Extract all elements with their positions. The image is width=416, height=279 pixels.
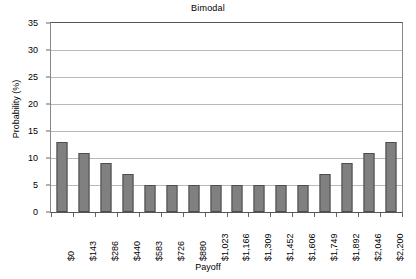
x-tick-mark [51,213,52,217]
y-tick-label: 5 [33,180,38,190]
x-tick-label: $1,166 [241,233,251,261]
bar-slot [161,23,183,212]
bar[interactable] [188,185,199,212]
x-tick-mark [139,213,140,217]
bar-slot [380,23,402,212]
x-tick-mark [358,213,359,217]
x-tick-label: $880 [198,241,208,261]
x-tick-mark [183,213,184,217]
bar[interactable] [122,174,133,212]
x-tick-mark [380,213,381,217]
x-tick-mark [314,213,315,217]
bar[interactable] [78,153,89,212]
y-tick-label: 15 [28,126,38,136]
bar-slot [51,23,73,212]
x-tick-label: $286 [110,241,120,261]
x-tick-mark [227,213,228,217]
x-tick-label: $2,200 [395,233,405,261]
y-axis: Probability (%) 05101520253035 [0,0,46,279]
x-tick-mark [292,213,293,217]
x-tick-mark [161,213,162,217]
y-tick-label: 0 [33,207,38,217]
bar[interactable] [254,185,265,212]
bar-slot [314,23,336,212]
chart-title: Bimodal [0,3,416,13]
bar-slot [292,23,314,212]
x-tick-label: $440 [132,241,142,261]
bar[interactable] [298,185,309,212]
x-tick-mark [270,213,271,217]
x-tick-label: $1,749 [329,233,339,261]
x-tick-label: $1,892 [351,233,361,261]
bar-chart: Bimodal Probability (%) 05101520253035 $… [0,0,416,279]
x-tick-mark [73,213,74,217]
bar-slot [95,23,117,212]
bar[interactable] [144,185,155,212]
x-tick-mark [248,213,249,217]
bar-slot [205,23,227,212]
y-tick-label: 35 [28,18,38,28]
x-tick-label: $1,023 [220,233,230,261]
y-tick-label: 30 [28,45,38,55]
x-tick-label: $1,309 [263,233,273,261]
bar-slot [183,23,205,212]
bars-layer [51,23,402,212]
x-tick-mark [117,213,118,217]
x-tick-label: $583 [154,241,164,261]
bar[interactable] [364,153,375,212]
bar-slot [336,23,358,212]
bar-slot [270,23,292,212]
bar-slot [73,23,95,212]
bar[interactable] [276,185,287,212]
bar[interactable] [100,163,111,212]
x-tick-label: $726 [176,241,186,261]
bar[interactable] [342,163,353,212]
y-axis-title: Probability (%) [11,49,21,169]
bar-slot [248,23,270,212]
x-tick-label: $143 [88,241,98,261]
x-axis-labels: $0$143$286$440$583$726$880$1,023$1,166$1… [51,219,402,263]
bar-slot [139,23,161,212]
x-tick-mark [95,213,96,217]
x-tick-mark [402,213,403,217]
bar[interactable] [320,174,331,212]
bar[interactable] [56,142,67,212]
bar-slot [227,23,249,212]
bar-slot [117,23,139,212]
x-tick-label: $1,606 [307,233,317,261]
x-tick-mark [205,213,206,217]
y-tick-label: 20 [28,99,38,109]
bar-slot [358,23,380,212]
x-tick-mark [336,213,337,217]
x-axis-ticks [51,213,402,218]
x-tick-label: $1,452 [285,233,295,261]
bar[interactable] [386,142,397,212]
x-tick-label: $2,046 [373,233,383,261]
x-tick-label: $0 [66,251,76,261]
bar[interactable] [232,185,243,212]
y-tick-label: 10 [28,153,38,163]
bar[interactable] [210,185,221,212]
bar[interactable] [166,185,177,212]
x-axis-title: Payoff [0,262,416,272]
y-tick-label: 25 [28,72,38,82]
